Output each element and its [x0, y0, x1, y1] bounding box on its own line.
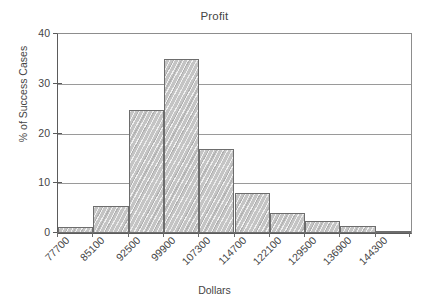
y-axis-tick-labels: 010203040	[22, 33, 50, 232]
x-axis-tick-label: 77700	[35, 234, 72, 271]
bar	[129, 110, 164, 233]
x-axis-tick-label: 92500	[105, 234, 142, 271]
plot-area	[57, 33, 412, 234]
x-axis-tick-label: 85100	[70, 234, 107, 271]
y-axis-tick-label: 10	[28, 176, 50, 188]
x-axis-tick-label: 114700	[211, 234, 248, 271]
x-axis-tick-label: 129500	[282, 234, 319, 271]
x-axis-tick-label: 122100	[247, 234, 284, 271]
x-axis-tick-label: 136900	[317, 234, 354, 271]
y-axis-tick-label: 30	[28, 77, 50, 89]
bar-series	[58, 34, 411, 233]
x-axis-tick-labels: 7770085100925009990010730011470012210012…	[57, 234, 410, 280]
bar	[199, 149, 234, 233]
x-axis-tick-label: 99900	[141, 234, 178, 271]
chart-title: Profit	[0, 10, 429, 22]
histogram-chart: Profit % of Success Cases 010203040 7770…	[0, 0, 429, 303]
x-axis-title: Dollars	[0, 284, 429, 296]
y-axis-tick-label: 20	[28, 127, 50, 139]
y-axis-tick-label: 40	[28, 27, 50, 39]
x-axis-tick-label: 107300	[176, 234, 213, 271]
y-axis-tick-label: 0	[28, 226, 50, 238]
bar	[164, 59, 199, 233]
x-axis-tick-label: 144300	[352, 234, 389, 271]
bar	[270, 213, 305, 233]
bar	[93, 206, 128, 233]
bar	[235, 193, 270, 233]
